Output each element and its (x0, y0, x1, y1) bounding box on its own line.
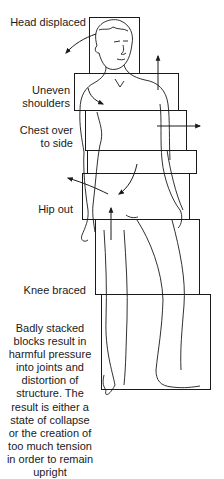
caption-line: structure. The (0, 387, 100, 400)
hip-out-arrow (68, 178, 108, 194)
shoulder-down-arrow (88, 88, 103, 104)
caption-line: in order to remain (0, 453, 100, 466)
caption-line: result is either a (0, 401, 100, 414)
chest-block (86, 111, 187, 151)
label-chest-over-2: to side (0, 137, 73, 150)
caption-line: blocks result in (0, 335, 100, 348)
caption-line: Badly stacked (0, 322, 100, 335)
caption-line: upright (0, 466, 100, 479)
label-hip-out: Hip out (0, 203, 73, 216)
label-chest-over-1: Chest over (0, 124, 73, 137)
lower-leg-block (102, 295, 211, 390)
hip-down-arrow (119, 164, 137, 194)
caption-line: distortion of (0, 374, 100, 387)
label-uneven-shoulders-1: Uneven (0, 84, 70, 97)
label-knee-braced: Knee braced (0, 284, 86, 297)
caption: Badly stacked blocks result in harmful p… (0, 322, 100, 479)
caption-line: state of collapse (0, 414, 100, 427)
caption-line: into joints and (0, 361, 100, 374)
caption-line: too much tension (0, 440, 100, 453)
waist-block (88, 151, 197, 174)
label-uneven-shoulders-2: shoulders (0, 97, 70, 110)
hip-block (83, 174, 190, 220)
head-arrow (66, 34, 96, 53)
caption-line: or the creation of (0, 427, 100, 440)
shoulder-block (75, 74, 179, 111)
label-head-displaced: Head displaced (4, 16, 86, 29)
direction-arrows (66, 34, 200, 240)
caption-line: harmful pressure (0, 348, 100, 361)
